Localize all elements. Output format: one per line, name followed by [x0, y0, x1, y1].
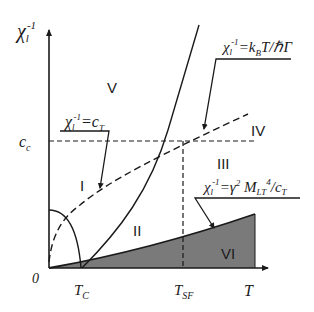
annotation-cT: χl-1=cT [63, 112, 105, 133]
annotation-kbt: χl-1=kBT/ℏΓ [221, 37, 293, 58]
phase-diagram: χl-1 T 0 cc TC TSF V I II III IV VI χl-1… [0, 0, 314, 312]
cc-tick-label: cc [19, 133, 31, 153]
region-label-vi: VI [221, 245, 235, 262]
x-axis-label: T [244, 282, 254, 299]
region-label-iii: III [217, 155, 230, 172]
region-label-i: I [80, 177, 84, 194]
region-label-ii: II [133, 222, 141, 239]
tsf-tick-label: TSF [174, 282, 194, 301]
y-axis-label: χl-1 [15, 19, 36, 44]
annotation-mlt: χl-1=γ2 MLT4/cT [202, 177, 288, 197]
region-label-v: V [107, 79, 117, 96]
annotation-cT-leader [60, 131, 109, 188]
tc-tick-label: TC [74, 282, 89, 301]
origin-label: 0 [32, 271, 39, 286]
region-label-iv: IV [251, 122, 265, 139]
annotation-kbt-leader [204, 59, 291, 129]
